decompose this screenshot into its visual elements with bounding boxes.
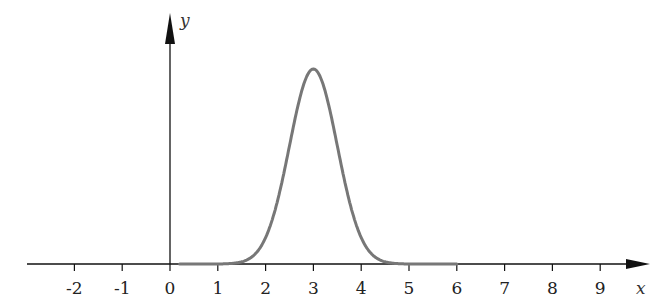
- x-tick-label: 7: [499, 278, 510, 298]
- x-tick-label: 1: [212, 278, 223, 298]
- chart: -2-10123456789 x y: [0, 0, 669, 307]
- x-tick-label: 0: [165, 278, 176, 298]
- x-axis-arrow-icon: [626, 259, 650, 269]
- x-tick-label: 4: [356, 278, 367, 298]
- gaussian-curve: [180, 69, 457, 264]
- y-axis-label: y: [179, 10, 190, 30]
- x-tick-label: 8: [547, 278, 558, 298]
- x-tick-label: 3: [308, 278, 319, 298]
- x-tick-label: -1: [114, 278, 131, 298]
- y-axis-arrow-icon: [165, 13, 175, 44]
- x-ticks: -2-10123456789: [66, 264, 605, 298]
- x-tick-label: 2: [260, 278, 271, 298]
- axes: [27, 13, 650, 269]
- x-axis-label: x: [636, 278, 646, 298]
- x-tick-label: 5: [404, 278, 415, 298]
- x-tick-label: 9: [595, 278, 606, 298]
- x-tick-label: -2: [66, 278, 83, 298]
- x-tick-label: 6: [451, 278, 462, 298]
